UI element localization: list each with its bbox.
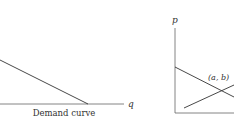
q-axis-label: q (128, 99, 134, 109)
demand-curve-diagram: q Demand curve (0, 60, 134, 118)
demand-line-right (175, 67, 234, 97)
supply-demand-diagram: p (a, b) (172, 15, 234, 113)
p-axis-label: p (172, 15, 178, 25)
diagram-canvas: q Demand curve p (a, b) (0, 0, 234, 120)
intersection-label: (a, b) (208, 73, 229, 82)
demand-line (0, 60, 88, 104)
demand-curve-caption: Demand curve (33, 108, 96, 118)
supply-line (184, 85, 234, 108)
